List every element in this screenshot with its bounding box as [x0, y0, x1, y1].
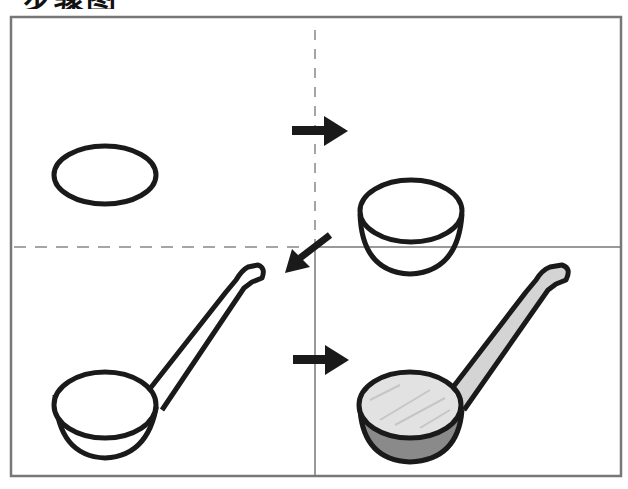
arrow-right-icon	[293, 345, 349, 375]
step-1-oval	[54, 146, 156, 204]
step-4-shaded-ladle	[359, 265, 568, 462]
arrow-right-icon	[292, 116, 348, 146]
arrow-down-left-icon	[285, 235, 330, 273]
step-diagram	[0, 0, 628, 489]
step-2-bowl	[360, 180, 462, 274]
step-3-ladle	[54, 265, 263, 458]
